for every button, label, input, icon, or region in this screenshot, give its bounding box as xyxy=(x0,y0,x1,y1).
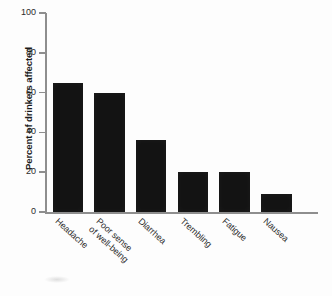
x-axis-category-label-line: Diarrhea xyxy=(136,216,168,246)
x-axis-category-label: Fatigue xyxy=(220,216,249,243)
bar xyxy=(261,194,292,212)
bar-chart-figure: Percent of drinkers affected 02040608010… xyxy=(0,0,332,296)
x-axis-category-label: Poor senseof well-being xyxy=(87,216,138,265)
x-axis-category-label: Trembling xyxy=(178,216,214,250)
bar xyxy=(136,140,167,212)
y-axis-tick-label: 20 xyxy=(0,166,36,176)
y-axis-tick-label: 0 xyxy=(0,206,36,216)
x-axis-category-label-line: Fatigue xyxy=(220,216,249,243)
x-axis-category-label-line: Headache xyxy=(53,216,90,251)
y-axis-tick-label: 100 xyxy=(0,7,36,17)
y-axis-tick-label: 60 xyxy=(0,87,36,97)
y-axis-tick-label: 40 xyxy=(0,126,36,136)
bar xyxy=(94,93,125,212)
x-axis-category-label: Diarrhea xyxy=(136,216,168,246)
x-axis-category-label-line: Nausea xyxy=(261,216,291,244)
bar xyxy=(53,83,84,212)
scan-artifact xyxy=(44,276,70,283)
bar xyxy=(178,172,209,212)
y-axis-tick-label: 80 xyxy=(0,47,36,57)
x-axis-category-label: Headache xyxy=(53,216,90,251)
x-axis-category-label-line: Trembling xyxy=(178,216,214,250)
bar xyxy=(219,172,250,212)
x-axis-category-label: Nausea xyxy=(261,216,291,244)
x-axis-line xyxy=(45,212,318,214)
plot-area xyxy=(45,13,318,212)
